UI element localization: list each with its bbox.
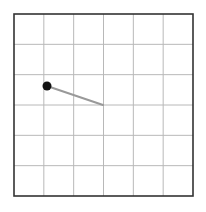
pointer-line: [47, 86, 103, 105]
pointer-knob[interactable]: [43, 82, 52, 91]
grid-diagram: [0, 0, 206, 212]
